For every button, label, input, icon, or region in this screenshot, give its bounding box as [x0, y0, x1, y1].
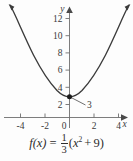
x-tick-label-0: 0 [62, 121, 67, 131]
equation-lhs: f(x) [29, 136, 46, 150]
y-tick-label-2: 2 [58, 100, 63, 110]
fraction-numerator: 1 [61, 132, 68, 143]
y-tick-label-8: 8 [58, 48, 63, 58]
y-tick-label-10: 10 [53, 31, 63, 41]
x-axis-label: x [121, 119, 127, 129]
y-tick-label-6: 6 [58, 65, 63, 75]
function-equation: f(x)= 1 3 (x2+9) [0, 133, 133, 156]
curve-right-arrow-icon [125, 4, 131, 10]
equation-equals: = [50, 136, 57, 150]
y-axis-label: y [59, 4, 65, 14]
equation-coefficient-fraction: 1 3 [61, 132, 68, 155]
vertex-value-label: 3 [87, 100, 92, 110]
x-tick-label-2: 2 [92, 121, 97, 131]
x-tick-label-neg2: -2 [41, 121, 49, 131]
y-axis-arrow-icon [66, 7, 73, 14]
x-tick-label-4: 4 [116, 121, 121, 131]
equation-plus: + [84, 136, 91, 150]
fraction-denominator: 3 [61, 143, 68, 155]
curve-left-arrow-icon [9, 4, 15, 10]
vertex-point-marker [67, 94, 72, 99]
equation-exponent: 2 [79, 135, 83, 144]
x-tick-label-neg4: -4 [17, 121, 25, 131]
graph-figure: -4 -2 0 2 4 2 4 6 8 10 12 y x 3 f(x)= 1 … [0, 0, 133, 161]
equation-close-paren: ) [100, 136, 104, 150]
vertex-leader-line [71, 97, 86, 105]
y-tick-label-12: 12 [53, 14, 63, 24]
